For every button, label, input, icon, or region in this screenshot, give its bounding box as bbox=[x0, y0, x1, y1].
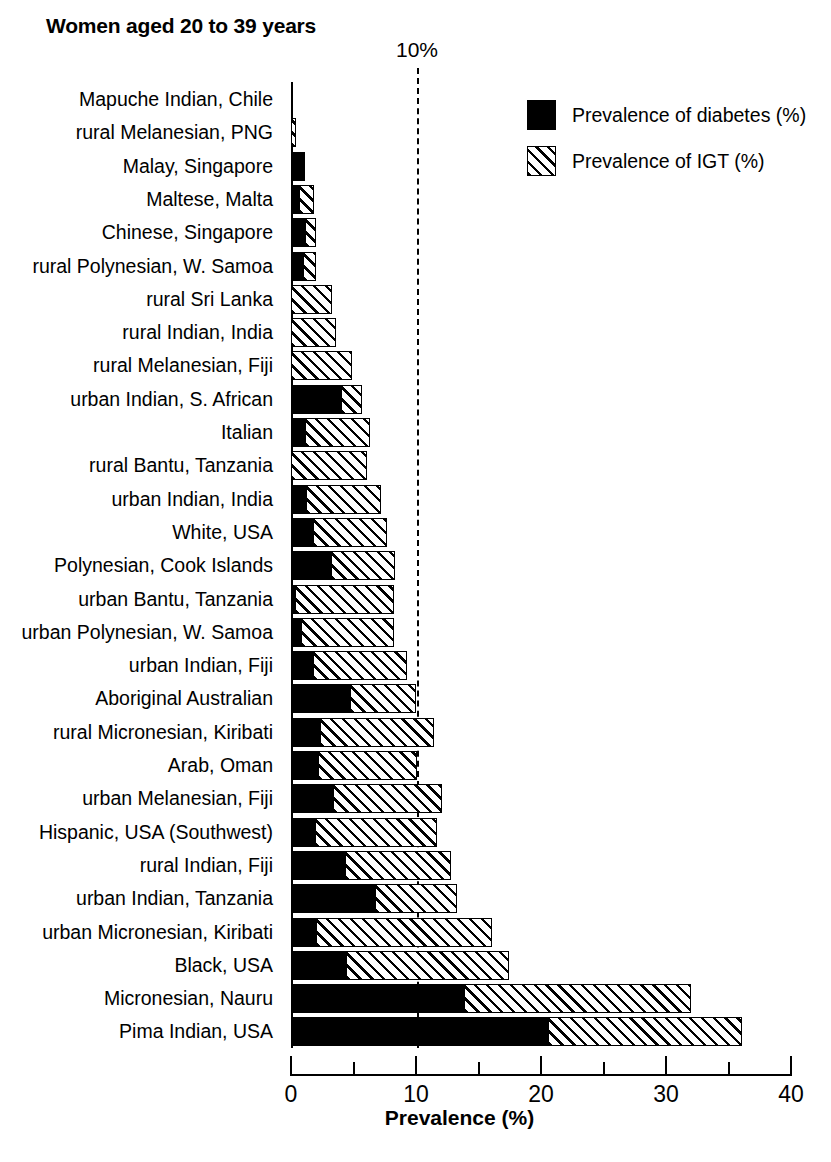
category-label: Micronesian, Nauru bbox=[104, 984, 273, 1013]
x-axis-tick-major bbox=[790, 1056, 792, 1076]
bar-segment-igt bbox=[304, 252, 317, 281]
bar-segment-diabetes bbox=[291, 684, 351, 713]
bar-segment-igt bbox=[351, 684, 416, 713]
bar-row bbox=[291, 551, 395, 580]
bar-segment-diabetes bbox=[291, 884, 376, 913]
bar-row bbox=[291, 351, 352, 380]
category-label: Maltese, Malta bbox=[146, 185, 273, 214]
x-axis-tick-major bbox=[415, 1056, 417, 1076]
bar-segment-igt bbox=[307, 485, 381, 514]
x-axis-tick-minor bbox=[728, 1062, 730, 1076]
bar-segment-diabetes bbox=[291, 551, 332, 580]
x-axis-tick-major bbox=[540, 1056, 542, 1076]
x-axis-title: Prevalence (%) bbox=[0, 1106, 831, 1130]
bar-segment-igt bbox=[291, 118, 296, 147]
x-axis-tick-minor bbox=[603, 1062, 605, 1076]
bar-segment-igt bbox=[346, 851, 451, 880]
ten-percent-label: 10% bbox=[396, 38, 438, 62]
category-label: Aboriginal Australian bbox=[95, 684, 273, 713]
category-label: rural Melanesian, PNG bbox=[76, 118, 273, 147]
category-label: rural Indian, Fiji bbox=[140, 851, 273, 880]
bar-segment-igt bbox=[549, 1017, 743, 1046]
x-axis-tick-label: 30 bbox=[653, 1081, 679, 1108]
bar-row bbox=[291, 385, 362, 414]
bar-segment-igt bbox=[302, 618, 393, 647]
bar-segment-igt bbox=[334, 784, 443, 813]
bar-segment-diabetes bbox=[291, 851, 346, 880]
bar-row bbox=[291, 818, 437, 847]
category-label: urban Indian, S. African bbox=[70, 385, 273, 414]
bar-segment-diabetes bbox=[291, 818, 316, 847]
bar-segment-diabetes bbox=[291, 984, 465, 1013]
bar-segment-igt bbox=[342, 385, 362, 414]
plot-area bbox=[291, 82, 791, 1048]
category-label: urban Indian, India bbox=[111, 485, 273, 514]
category-label: urban Melanesian, Fiji bbox=[82, 784, 273, 813]
bar-segment-diabetes bbox=[291, 418, 306, 447]
bar-segment-diabetes bbox=[291, 485, 307, 514]
category-label: rural Melanesian, Fiji bbox=[93, 351, 273, 380]
bar-segment-diabetes bbox=[291, 385, 342, 414]
bar-row bbox=[291, 918, 492, 947]
bar-segment-igt bbox=[347, 951, 508, 980]
bar-segment-igt bbox=[291, 285, 332, 314]
bar-segment-igt bbox=[332, 551, 395, 580]
category-label: rural Micronesian, Kiribati bbox=[53, 718, 273, 747]
category-label: Italian bbox=[221, 418, 273, 447]
category-label: urban Bantu, Tanzania bbox=[78, 585, 273, 614]
category-label: rural Indian, India bbox=[122, 318, 273, 347]
bar-segment-diabetes bbox=[291, 185, 300, 214]
bar-segment-igt bbox=[376, 884, 457, 913]
bar-segment-igt bbox=[306, 418, 370, 447]
bar-row bbox=[291, 684, 416, 713]
bar-row bbox=[291, 118, 296, 147]
bar-row bbox=[291, 718, 434, 747]
bar-row bbox=[291, 185, 314, 214]
category-label: White, USA bbox=[172, 518, 273, 547]
category-label: rural Sri Lanka bbox=[146, 285, 273, 314]
bar-row bbox=[291, 318, 336, 347]
bar-segment-igt bbox=[296, 585, 394, 614]
bar-segment-igt bbox=[306, 218, 316, 247]
bar-row bbox=[291, 418, 370, 447]
category-label: urban Indian, Tanzania bbox=[76, 884, 273, 913]
category-label: urban Polynesian, W. Samoa bbox=[22, 618, 273, 647]
category-label: Chinese, Singapore bbox=[102, 218, 273, 247]
bar-row bbox=[291, 252, 316, 281]
category-label: rural Bantu, Tanzania bbox=[89, 451, 273, 480]
category-label: urban Indian, Fiji bbox=[129, 651, 273, 680]
bar-segment-diabetes bbox=[291, 718, 321, 747]
x-axis-title-text: Prevalence (%) bbox=[297, 1106, 534, 1129]
bar-segment-igt bbox=[291, 351, 352, 380]
category-label: Malay, Singapore bbox=[123, 152, 273, 181]
category-label: Hispanic, USA (Southwest) bbox=[39, 818, 273, 847]
bar-segment-igt bbox=[316, 818, 437, 847]
bar-row bbox=[291, 1017, 742, 1046]
bar-row bbox=[291, 518, 387, 547]
bar-segment-diabetes bbox=[291, 784, 334, 813]
bar-segment-diabetes bbox=[291, 218, 306, 247]
bar-row bbox=[291, 152, 305, 181]
x-axis: 010203040 bbox=[291, 1048, 793, 1108]
bar-row bbox=[291, 651, 407, 680]
bar-segment-igt bbox=[291, 451, 367, 480]
x-axis-tick-minor bbox=[353, 1062, 355, 1076]
bar-segment-igt bbox=[319, 751, 418, 780]
bar-segment-diabetes bbox=[291, 518, 314, 547]
category-axis-labels: Mapuche Indian, Chilerural Melanesian, P… bbox=[0, 82, 283, 1048]
x-axis-tick-label: 40 bbox=[778, 1081, 804, 1108]
bar-segment-igt bbox=[317, 918, 492, 947]
x-axis-tick-label: 0 bbox=[285, 1081, 298, 1108]
x-axis-tick-major bbox=[665, 1056, 667, 1076]
chart-figure: Women aged 20 to 39 years 10% Prevalence… bbox=[0, 0, 831, 1162]
bar-row bbox=[291, 751, 417, 780]
bar-row bbox=[291, 218, 316, 247]
x-axis-tick-minor bbox=[478, 1062, 480, 1076]
bar-row bbox=[291, 451, 367, 480]
category-label: Black, USA bbox=[174, 951, 273, 980]
bar-row bbox=[291, 784, 442, 813]
bar-segment-diabetes bbox=[291, 751, 319, 780]
bar-segment-igt bbox=[314, 651, 408, 680]
bar-row bbox=[291, 618, 394, 647]
bar-segment-igt bbox=[321, 718, 434, 747]
